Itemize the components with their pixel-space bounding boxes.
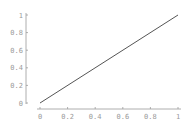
x-tick-label: 0.8: [144, 113, 157, 121]
data-series: [40, 15, 178, 103]
series-line: [40, 15, 178, 103]
x-tick-label: 0.6: [116, 113, 129, 121]
y-tick-label: 0.2: [10, 82, 23, 90]
x-tick-label: 0.4: [89, 113, 102, 121]
y-ticks: 00.20.40.60.81: [10, 12, 28, 108]
y-tick-label: 0.4: [10, 64, 23, 72]
line-chart: 00.20.40.60.81 00.20.40.60.81: [0, 0, 193, 126]
x-tick-label: 0.2: [61, 113, 74, 121]
y-tick-label: 0: [19, 100, 23, 108]
y-tick-label: 0.6: [10, 47, 23, 55]
y-tick-label: 1: [19, 12, 23, 20]
y-tick-label: 0.8: [10, 29, 23, 37]
x-tick-label: 0: [38, 113, 42, 121]
x-tick-label: 1: [176, 113, 180, 121]
